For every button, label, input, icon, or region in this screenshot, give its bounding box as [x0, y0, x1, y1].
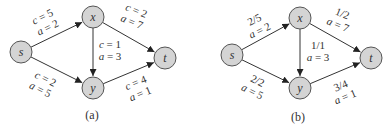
caption-b: (b) [291, 110, 305, 124]
caption-a: (a) [85, 108, 98, 122]
diagram-a-capacity-cost: c = 5a = 2c = 2a = 5c = 1a = 3c = 2a = 7… [10, 0, 176, 122]
edge-label-s-y: 2/2a = 5 [240, 70, 271, 102]
node-t: t [154, 47, 176, 69]
edge-label-line1: 1/1 [311, 39, 325, 51]
edge-label-line2: a = 3 [307, 51, 330, 63]
edge-label-x-y: c = 1a = 3 [99, 38, 122, 62]
node-label: x [89, 10, 96, 24]
edge-label-x-t: 1/2a = 7 [325, 3, 356, 34]
node-label: x [296, 11, 303, 25]
flow-network-figure: c = 5a = 2c = 2a = 5c = 1a = 3c = 2a = 7… [0, 0, 390, 133]
node-label: y [89, 81, 96, 95]
node-x: x [82, 6, 104, 28]
edge-label-x-y: 1/1a = 3 [307, 39, 330, 63]
node-label: s [19, 45, 24, 59]
diagram-b-flow-cost: 2/5a = 22/2a = 51/1a = 31/2a = 73/4a = 1… [221, 3, 382, 124]
edge-label-y-t: c = 4a = 1 [123, 72, 153, 103]
node-y: y [82, 77, 104, 99]
edge-label-y-t: 3/4a = 1 [328, 75, 358, 106]
edge-label-line1: c = 1 [99, 38, 121, 50]
edge-label-s-x: c = 5a = 2 [29, 6, 60, 38]
edge-label-s-y: c = 2a = 5 [28, 68, 59, 100]
node-y: y [289, 77, 311, 99]
node-s: s [10, 41, 32, 63]
node-x: x [289, 7, 311, 29]
node-label: y [296, 81, 303, 95]
node-s: s [221, 44, 243, 66]
edge-label-line2: a = 3 [99, 50, 122, 62]
node-t: t [360, 47, 382, 69]
node-label: s [230, 48, 235, 62]
edge-label-x-t: c = 2a = 7 [119, 0, 150, 31]
